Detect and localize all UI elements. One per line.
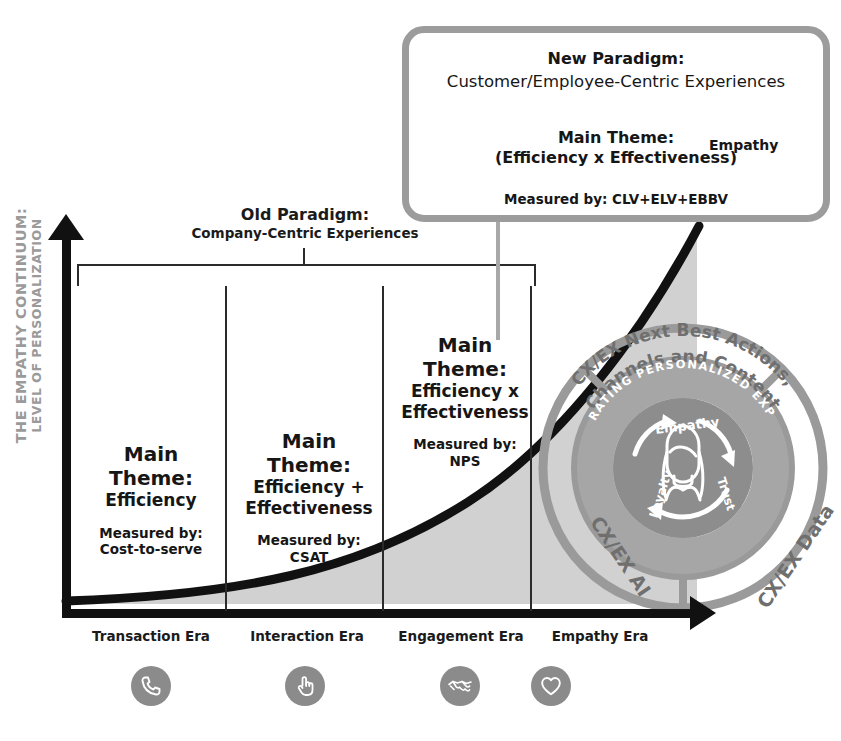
column-transaction-era: Main Theme: Efficiency Measured by: Cost… (78, 443, 224, 558)
col2-theme-body2: Effectiveness (234, 498, 384, 518)
new-paradigm-callout: New Paradigm: Customer/Employee-Centric … (402, 26, 830, 222)
col3-measured-label: Measured by: (390, 436, 540, 453)
col1-measured-value: Cost-to-serve (78, 541, 224, 558)
col2-theme-lead2: Theme: (234, 454, 384, 478)
col2-measured-label: Measured by: (234, 532, 384, 549)
column-divider-1 (225, 286, 227, 611)
y-axis-title: THE EMPATHY CONTINUUM: LEVEL OF PERSONAL… (13, 201, 44, 451)
era-label-empathy: Empathy Era (540, 628, 660, 644)
col3-theme-body2: Effectiveness (390, 402, 540, 422)
x-axis-arrowhead (690, 596, 716, 630)
col1-measured-label: Measured by: (78, 525, 224, 542)
diagram-canvas: CX/EX Next Best Actions, Channels and Co… (0, 0, 841, 741)
col1-theme-lead: Main (78, 443, 224, 467)
new-paradigm-exponent: Empathy (709, 137, 778, 153)
bracket-stem (303, 248, 305, 265)
y-axis-title-main: THE EMPATHY CONTINUUM: (13, 201, 30, 451)
tap-finger-icon (285, 666, 325, 706)
callout-connector-line (496, 222, 500, 340)
col2-measured-value: CSAT (234, 549, 384, 566)
era-label-interaction: Interaction Era (232, 628, 382, 644)
old-paradigm-bracket (77, 264, 536, 286)
col1-theme-body: Efficiency (78, 490, 224, 510)
new-paradigm-measured: Measured by: CLV+ELV+EBBV (409, 191, 823, 207)
heart-icon (531, 666, 571, 706)
col3-measured-value: NPS (390, 453, 540, 470)
era-label-transaction: Transaction Era (78, 628, 224, 644)
col2-theme-body: Efficiency + (234, 477, 384, 497)
col3-theme-body: Efficiency x (390, 381, 540, 401)
handshake-icon (440, 666, 480, 706)
col3-theme-lead2: Theme: (390, 358, 540, 382)
col1-theme-lead2: Theme: (78, 467, 224, 491)
column-interaction-era: Main Theme: Efficiency + Effectiveness M… (234, 430, 384, 566)
y-axis-arrowhead (48, 214, 84, 240)
x-axis (62, 609, 700, 618)
era-label-engagement: Engagement Era (386, 628, 536, 644)
y-axis-title-sub: LEVEL OF PERSONALIZATION (30, 201, 44, 451)
y-axis (62, 232, 71, 617)
empathy-wheel-diagram: CX/EX Next Best Actions, Channels and Co… (530, 315, 841, 625)
phone-icon (131, 666, 171, 706)
new-paradigm-title: New Paradigm: (409, 49, 823, 70)
col3-theme-lead: Main (390, 334, 540, 358)
column-engagement-era: Main Theme: Efficiency x Effectiveness M… (390, 334, 540, 470)
col2-theme-lead: Main (234, 430, 384, 454)
new-paradigm-subtitle: Customer/Employee-Centric Experiences (409, 71, 823, 92)
old-paradigm-subtitle: Company-Centric Experiences (110, 225, 500, 242)
